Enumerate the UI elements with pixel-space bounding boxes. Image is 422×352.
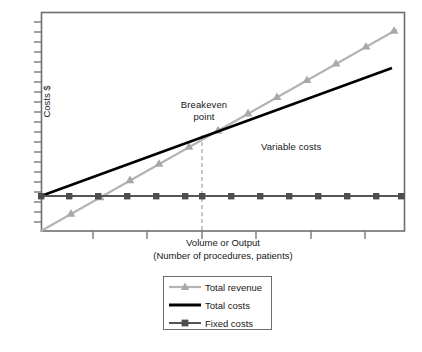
series-total-revenue	[41, 26, 398, 231]
breakeven-annotation: Breakeven point	[168, 99, 240, 122]
series-fixed-costs	[38, 193, 404, 199]
breakeven-annotation-line2: point	[193, 111, 214, 122]
x-axis-label-line1: Volume or Output	[41, 237, 405, 250]
legend-label-total-revenue: Total revenue	[205, 282, 262, 293]
variable-costs-annotation: Variable costs	[261, 141, 321, 153]
legend-swatch-total-costs	[168, 297, 202, 313]
breakeven-chart: Costs $ Breakeven point Variable costs V…	[0, 0, 422, 352]
legend-label-total-costs: Total costs	[205, 300, 250, 311]
x-axis-label-group: Volume or Output (Number of procedures, …	[41, 237, 405, 262]
legend-marker-solid-line-icon	[168, 297, 202, 313]
legend-swatch-fixed-costs	[168, 315, 202, 331]
legend-item-total-revenue: Total revenue	[164, 278, 271, 296]
total-costs-line	[41, 68, 392, 196]
y-axis-label: Costs $	[41, 72, 52, 132]
legend-swatch-total-revenue	[168, 279, 202, 295]
chart-legend: Total revenue Total costs Fixed costs	[163, 276, 272, 330]
legend-item-fixed-costs: Fixed costs	[164, 314, 271, 332]
legend-item-total-costs: Total costs	[164, 296, 271, 314]
series-total-costs	[41, 68, 392, 196]
legend-label-fixed-costs: Fixed costs	[205, 318, 253, 329]
legend-marker-triangle-up-icon	[168, 279, 202, 295]
legend-marker-square-icon	[168, 315, 202, 331]
x-axis-label-line2: (Number of procedures, patients)	[41, 250, 405, 263]
breakeven-annotation-line1: Breakeven	[181, 99, 227, 110]
